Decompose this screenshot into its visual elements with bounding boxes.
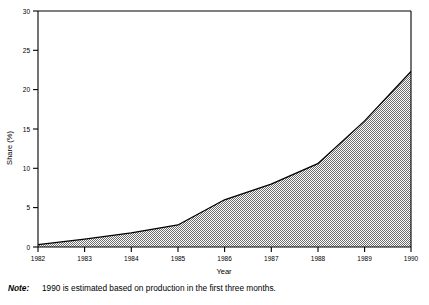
x-tick-label-1989: 1989	[357, 255, 372, 262]
y-axis-title: Share (%)	[5, 131, 14, 165]
y-tick-label-10: 10	[23, 165, 31, 172]
x-tick-label-1983: 1983	[77, 255, 92, 262]
x-tick-label-1987: 1987	[264, 255, 279, 262]
note-label: Note:	[8, 283, 42, 294]
y-tick-label-15: 15	[23, 126, 31, 133]
x-axis-title: Year	[216, 267, 232, 276]
x-tick-label-1986: 1986	[217, 255, 232, 262]
y-tick-label-25: 25	[23, 47, 31, 54]
x-tick-label-1990: 1990	[404, 255, 419, 262]
chart-area: 30 25 20 15 10 5 0 Share (%) 1982	[0, 0, 429, 278]
x-tick-label-1982: 1982	[31, 255, 46, 262]
x-tick-label-1988: 1988	[311, 255, 326, 262]
area-chart: 30 25 20 15 10 5 0 Share (%) 1982	[0, 0, 429, 278]
y-tick-label-20: 20	[23, 86, 31, 93]
x-tick-label-1985: 1985	[171, 255, 186, 262]
figure-note: Note: 1990 is estimated based on product…	[8, 283, 428, 294]
y-tick-marks	[33, 11, 38, 247]
y-tick-label-0: 0	[26, 244, 30, 251]
y-tick-label-5: 5	[26, 204, 30, 211]
note-text: 1990 is estimated based on production in…	[42, 283, 276, 294]
x-tick-marks	[38, 247, 411, 252]
y-tick-label-30: 30	[23, 8, 31, 15]
x-tick-label-1984: 1984	[124, 255, 139, 262]
figure: 30 25 20 15 10 5 0 Share (%) 1982	[0, 0, 429, 305]
